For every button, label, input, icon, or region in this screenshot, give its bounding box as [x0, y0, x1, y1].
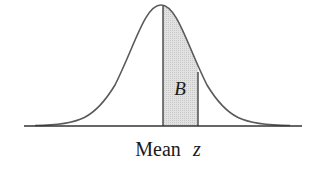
normal-curve-diagram: B Mean z	[0, 0, 310, 169]
mean-label: Mean	[135, 138, 181, 160]
region-label: B	[174, 78, 186, 99]
z-label: z	[192, 138, 201, 160]
shaded-area-b	[163, 0, 198, 126]
